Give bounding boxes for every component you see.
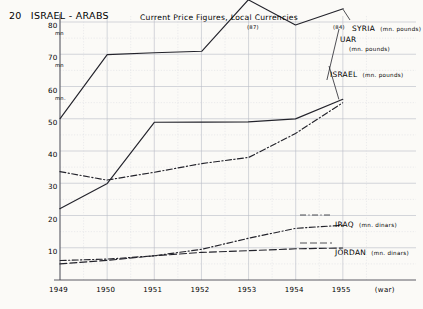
y-tick-label-10: 10 <box>48 247 58 256</box>
legend-label-iraq: IRAQ <box>335 220 354 229</box>
y-tick-80: 80mn <box>48 13 64 36</box>
legend-unit-syria: (mn. pounds) <box>380 26 421 32</box>
y-tick-label-80: 80 <box>48 21 58 30</box>
x-axis-extra-label: (war) <box>375 286 395 294</box>
legend-unit-iraq: (mn. dinars) <box>359 222 397 228</box>
y-tick-unit-60: mn. <box>55 95 66 101</box>
syria-peak-annotation: (87) <box>247 24 259 30</box>
legend-item-israel: ISRAEL (mn. pounds) <box>330 62 404 81</box>
chart-subtitle: Current Price Figures, Local Currencies <box>140 13 298 22</box>
y-tick-label-30: 30 <box>48 182 58 191</box>
y-tick-70: 70mn <box>48 45 64 68</box>
y-tick-unit-80: mn <box>55 30 64 36</box>
y-tick-10: 10 <box>48 239 58 258</box>
y-tick-label-40: 40 <box>48 150 58 159</box>
x-tick-1955: 1955 <box>332 286 351 294</box>
y-tick-label-60: 60 <box>48 86 58 95</box>
chart-sheet: 20 ISRAEL - ARABS Current Price Figures,… <box>0 0 423 309</box>
y-tick-40: 40 <box>48 142 58 161</box>
legend-label-jordan: JORDAN <box>335 248 366 257</box>
legend-item-iraq: IRAQ (mn. dinars) <box>335 212 397 231</box>
legend-label-israel: ISRAEL <box>330 70 357 79</box>
y-tick-60: 60mn. <box>48 78 66 101</box>
y-tick-30: 30 <box>48 174 58 193</box>
legend-unit-uar: (mn. pounds) <box>349 46 390 52</box>
y-tick-label-50: 50 <box>48 118 58 127</box>
page-title: ISRAEL - ARABS <box>31 10 109 21</box>
x-tick-1951: 1951 <box>143 286 162 294</box>
x-tick-1950: 1950 <box>96 286 115 294</box>
y-tick-label-20: 20 <box>48 215 58 224</box>
y-tick-unit-70: mn <box>55 62 64 68</box>
y-tick-label-70: 70 <box>48 53 58 62</box>
legend-item-syria: SYRIA (mn. pounds) <box>352 16 421 35</box>
legend-unit-israel: (mn. pounds) <box>362 72 403 78</box>
legend-item-jordan: JORDAN (mn. dinars) <box>335 240 409 259</box>
figure-number: 20 <box>9 10 22 21</box>
x-tick-1949: 1949 <box>49 286 68 294</box>
y-tick-50: 50 <box>48 110 58 129</box>
legend-unit-jordan: (mn. dinars) <box>371 250 409 256</box>
y-tick-20: 20 <box>48 207 58 226</box>
x-tick-1954: 1954 <box>285 286 304 294</box>
x-tick-1952: 1952 <box>190 286 209 294</box>
x-tick-1953: 1953 <box>238 286 257 294</box>
legend-unit-uar-wrap: (mn. pounds) <box>349 36 390 55</box>
